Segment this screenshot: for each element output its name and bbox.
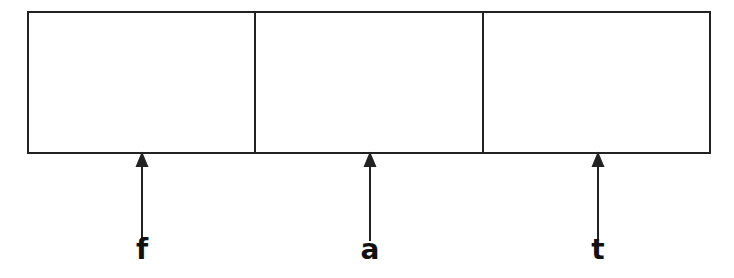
pointer-label-t: t [591, 236, 604, 264]
pointer-label-f: f [136, 236, 148, 264]
arrow-f-icon [137, 154, 147, 241]
arrow-t-icon [593, 154, 603, 241]
pointer-label-a: a [361, 236, 380, 264]
arrow-a-icon [365, 154, 375, 241]
